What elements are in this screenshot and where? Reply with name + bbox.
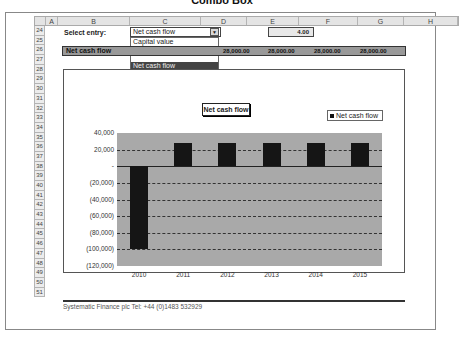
row-header[interactable]: 50 <box>34 278 45 288</box>
chart-legend: Net cash flow <box>327 110 383 121</box>
column-header[interactable]: B <box>58 17 130 25</box>
row-header[interactable]: 34 <box>34 123 45 133</box>
page-title: Combo Box <box>0 0 444 6</box>
row-header[interactable]: 36 <box>34 142 45 152</box>
x-tick-label: 2010 <box>119 271 159 278</box>
column-header[interactable]: C <box>130 17 201 25</box>
gridline <box>117 200 382 201</box>
y-tick-label: (40,000) <box>60 196 114 203</box>
x-tick-label: 2014 <box>296 271 336 278</box>
y-tick-label: (20,000) <box>60 179 114 186</box>
row-header[interactable]: 44 <box>34 220 45 230</box>
combo-option[interactable]: Capital value <box>131 38 218 46</box>
row-header[interactable]: 26 <box>34 45 45 55</box>
bar-2013[interactable] <box>263 143 281 166</box>
footer-text: Systematic Finance plc Tel: +44 (0)1483 … <box>63 303 202 310</box>
row-header[interactable]: 27 <box>34 55 45 65</box>
row-header[interactable]: 38 <box>34 162 45 172</box>
net-cash-flow-row: Net cash flow 28,000.00 28,000.00 28,000… <box>62 46 406 56</box>
legend-swatch-icon <box>330 114 334 118</box>
chevron-down-icon[interactable]: ▼ <box>210 28 219 36</box>
row-header[interactable]: 33 <box>34 113 45 123</box>
bar-2015[interactable] <box>351 143 369 166</box>
gridline <box>117 249 382 250</box>
gridline <box>117 216 382 217</box>
band-value: 28,000.00 <box>314 47 341 55</box>
band-label: Net cash flow <box>66 47 111 55</box>
gridline <box>117 233 382 234</box>
column-header[interactable]: E <box>247 17 299 25</box>
column-header[interactable]: A <box>46 17 58 25</box>
row-headers: 2425262728293031323334353637383940414243… <box>34 26 45 297</box>
row-header[interactable]: 39 <box>34 171 45 181</box>
row-header[interactable]: 30 <box>34 84 45 94</box>
y-tick-label: 40,000 <box>60 129 114 136</box>
row-header[interactable]: 46 <box>34 239 45 249</box>
column-header[interactable] <box>35 17 46 25</box>
y-tick-label: (120,000) <box>60 262 114 269</box>
bar-2010[interactable] <box>130 166 148 249</box>
y-tick-label: (100,000) <box>60 245 114 252</box>
y-tick-label: (80,000) <box>60 229 114 236</box>
footer-divider <box>63 300 405 302</box>
row-header[interactable]: 51 <box>34 288 45 298</box>
y-tick-label: 20,000 <box>60 146 114 153</box>
index-value-cell: 4.00 <box>268 27 314 37</box>
row-header[interactable]: 42 <box>34 200 45 210</box>
column-header[interactable]: F <box>299 17 358 25</box>
gridline <box>117 150 382 151</box>
x-tick-label: 2015 <box>340 271 380 278</box>
combo-value: Net cash flow <box>133 28 175 35</box>
band-value: 28,000.00 <box>360 47 387 55</box>
row-header[interactable]: 25 <box>34 36 45 46</box>
row-header[interactable]: 37 <box>34 152 45 162</box>
x-tick-label: 2012 <box>207 271 247 278</box>
row-header[interactable]: 41 <box>34 191 45 201</box>
band-value: 28,000.00 <box>268 47 295 55</box>
row-header[interactable]: 45 <box>34 229 45 239</box>
column-header[interactable]: H <box>404 17 458 25</box>
row-header[interactable]: 29 <box>34 74 45 84</box>
y-tick-label: (60,000) <box>60 212 114 219</box>
row-header[interactable]: 31 <box>34 94 45 104</box>
row-header[interactable]: 24 <box>34 26 45 36</box>
x-tick-label: 2011 <box>163 271 203 278</box>
column-header[interactable]: D <box>201 17 247 25</box>
row-header[interactable]: 40 <box>34 181 45 191</box>
chart-title: Net cash flow <box>202 103 250 116</box>
row-header[interactable]: 49 <box>34 268 45 278</box>
plot-area <box>117 133 382 266</box>
y-tick-label: - <box>60 162 114 169</box>
entry-combo-box[interactable]: Net cash flow ▼ <box>130 27 221 37</box>
select-entry-label: Select entry: <box>64 29 106 36</box>
bar-2014[interactable] <box>307 143 325 166</box>
row-header[interactable]: 28 <box>34 65 45 75</box>
row-header[interactable]: 43 <box>34 210 45 220</box>
row-header[interactable]: 32 <box>34 104 45 114</box>
band-value: 28,000.00 <box>223 47 250 55</box>
row-header[interactable]: 48 <box>34 259 45 269</box>
column-header[interactable]: G <box>358 17 404 25</box>
x-tick-label: 2013 <box>252 271 292 278</box>
bar-2012[interactable] <box>218 143 236 166</box>
gridline <box>117 183 382 184</box>
zero-axis <box>117 166 382 167</box>
row-header[interactable]: 47 <box>34 249 45 259</box>
row-header[interactable]: 35 <box>34 133 45 143</box>
column-headers: ABCDEFGH <box>34 16 459 26</box>
bar-2011[interactable] <box>174 143 192 166</box>
